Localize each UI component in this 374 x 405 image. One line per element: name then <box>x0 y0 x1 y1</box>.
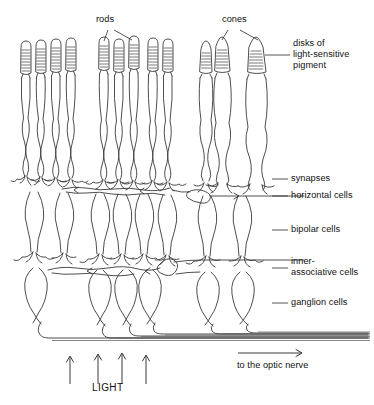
rod-cell <box>45 39 66 187</box>
cone-cell <box>194 41 217 192</box>
middle-rod-group <box>86 36 186 191</box>
optic-nerve-fiber-bundle <box>52 332 370 341</box>
bipolar-cell <box>52 193 76 264</box>
label-synapses: synapses <box>291 173 330 184</box>
cone-cell <box>238 37 274 194</box>
horizontal-cell-layer <box>62 187 304 203</box>
label-disks-line3: pigment <box>293 60 326 71</box>
bipolar-cell <box>14 192 54 263</box>
rod-cell <box>157 39 186 191</box>
label-inner-associative-line1: inner- <box>291 256 315 267</box>
label-disks-line2: light-sensitive <box>293 49 349 60</box>
label-ganglion-cells: ganglion cells <box>291 297 347 308</box>
bipolar-cell-layer <box>14 192 263 267</box>
rod-cell <box>86 37 114 189</box>
rod-cell <box>108 39 129 189</box>
cone-group <box>194 37 274 194</box>
bipolar-cell <box>229 196 263 267</box>
bipolar-cell <box>186 196 220 267</box>
rod-cell <box>31 40 50 185</box>
bipolar-cell <box>110 194 134 265</box>
label-rods: rods <box>96 14 114 25</box>
label-horizontal-cells: horizontal cells <box>291 190 353 201</box>
label-light: LIGHT <box>92 382 123 393</box>
label-bipolar-cells: bipolar cells <box>291 224 340 235</box>
label-cones: cones <box>222 14 247 25</box>
bipolar-cell <box>155 195 179 266</box>
optic-nerve-arrow <box>238 350 302 357</box>
label-optic-nerve: to the optic nerve <box>237 360 308 371</box>
label-inner-associative-line2: associative cells <box>291 267 358 278</box>
rod-cell <box>142 38 163 190</box>
label-disks-line1: disks of <box>293 38 325 49</box>
retina-diagram: rods cones disks of light-sensitive pigm… <box>0 0 374 405</box>
bipolar-cell <box>80 194 112 265</box>
left-rod-group <box>11 38 88 188</box>
light-arrows <box>67 353 150 384</box>
rod-cell <box>60 38 88 188</box>
rod-cell <box>122 36 145 190</box>
